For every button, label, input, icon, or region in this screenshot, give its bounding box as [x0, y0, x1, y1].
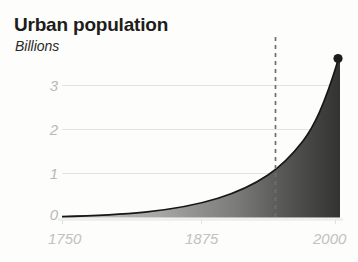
xtick-label-2000: 2000 — [313, 230, 346, 247]
endpoint-marker-dot — [333, 54, 342, 63]
ytick-label-0: 0 — [36, 206, 58, 223]
xtick-label-1750: 1750 — [48, 230, 81, 247]
area-fill — [62, 61, 340, 218]
ytick-label-1: 1 — [36, 165, 58, 182]
chart-figure: Urban population Billions — [0, 0, 358, 262]
ytick-label-3: 3 — [36, 77, 58, 94]
ytick-label-2: 2 — [36, 121, 58, 138]
area-series-urban-population — [62, 61, 340, 218]
xtick-label-1875: 1875 — [185, 230, 218, 247]
